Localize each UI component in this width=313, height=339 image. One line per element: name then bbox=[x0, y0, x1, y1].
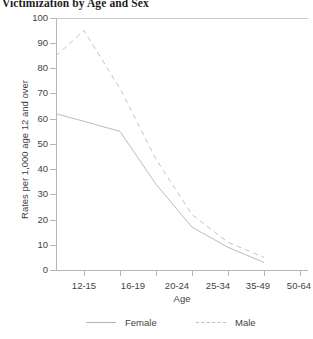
y-axis-title: Rates per 1,000 age 12 and over bbox=[19, 60, 30, 240]
x-tick-label: 50-64 bbox=[276, 280, 313, 291]
y-tick-label: 50 bbox=[4, 139, 48, 148]
legend: Female Male bbox=[56, 314, 308, 332]
y-tick-label: 60 bbox=[4, 114, 48, 123]
y-tick-label: 90 bbox=[4, 38, 48, 47]
x-tick-mark bbox=[84, 270, 85, 276]
legend-label: Male bbox=[235, 317, 256, 328]
x-axis-title: Age bbox=[56, 293, 308, 304]
series-line-male bbox=[56, 31, 264, 258]
legend-item-male[interactable]: Male bbox=[196, 314, 256, 330]
y-tick-label: 20 bbox=[4, 215, 48, 224]
x-tick-label: 35-49 bbox=[235, 280, 281, 291]
series-line-female bbox=[56, 114, 264, 263]
y-tick-label: 10 bbox=[4, 240, 48, 249]
y-tick-label: 100 bbox=[4, 13, 48, 22]
x-tick-mark bbox=[300, 270, 301, 276]
x-tick-label: 16-19 bbox=[110, 280, 156, 291]
y-tick-label: 30 bbox=[4, 189, 48, 198]
x-tick-mark bbox=[120, 270, 121, 276]
x-tick-mark bbox=[264, 270, 265, 276]
legend-item-female[interactable]: Female bbox=[86, 314, 157, 330]
legend-label: Female bbox=[125, 317, 157, 328]
x-tick-label: 12-15 bbox=[61, 280, 107, 291]
plot-area bbox=[56, 18, 308, 270]
page-title: Victimization by Age and Sex bbox=[2, 0, 149, 9]
x-tick-mark bbox=[228, 270, 229, 276]
plot-top-border bbox=[56, 18, 308, 19]
legend-swatch-solid-icon bbox=[86, 322, 116, 323]
y-tick-label: 0 bbox=[4, 265, 48, 274]
y-tick-label: 80 bbox=[4, 63, 48, 72]
legend-swatch-dashed-icon bbox=[196, 322, 226, 323]
y-tick-label: 70 bbox=[4, 88, 48, 97]
x-tick-mark bbox=[192, 270, 193, 276]
x-tick-mark bbox=[156, 270, 157, 276]
chart-page: Victimization by Age and Sex Rates per 1… bbox=[0, 0, 313, 339]
x-axis-line bbox=[56, 270, 308, 271]
y-tick-label: 40 bbox=[4, 164, 48, 173]
x-tick-label: 20-24 bbox=[154, 280, 200, 291]
series-canvas bbox=[56, 18, 308, 270]
